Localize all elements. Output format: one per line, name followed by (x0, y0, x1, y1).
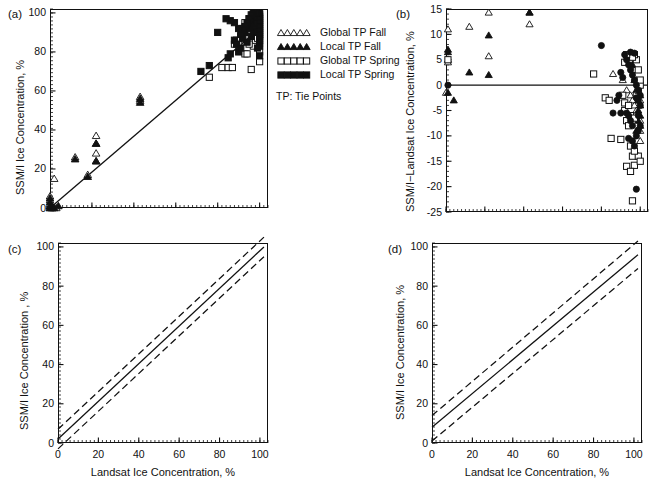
x-tick-label: 0 (418, 448, 446, 460)
y-tick-label: 0 (398, 437, 428, 449)
x-tick-label: 80 (206, 448, 234, 460)
y-tick-label: -20 (412, 180, 442, 192)
x-tick-label: 20 (458, 448, 486, 460)
y-tick-label: 60 (24, 319, 54, 331)
legend-item-label: Global TP Fall (320, 26, 386, 38)
x-tick-label: 40 (499, 448, 527, 460)
y-tick-label: 40 (398, 358, 428, 370)
y-tick-label: 20 (398, 397, 428, 409)
y-tick-label: 60 (398, 319, 428, 331)
y-tick-label: 15 (412, 3, 442, 15)
y-tick-label: 5 (412, 53, 442, 65)
y-tick-label: 0 (24, 437, 54, 449)
y-tick-label: 40 (24, 358, 54, 370)
y-tick-label: 80 (16, 45, 46, 57)
y-tick-label: 100 (24, 240, 54, 252)
y-tick-label: 20 (16, 162, 46, 174)
y-tick-label: 100 (16, 6, 46, 18)
y-tick-label: -25 (412, 206, 442, 218)
x-tick-label: 100 (246, 448, 274, 460)
y-tick-label: 10 (412, 28, 442, 40)
y-tick-label: 40 (16, 123, 46, 135)
y-tick-label: 60 (16, 84, 46, 96)
y-tick-label: 0 (412, 79, 442, 91)
x-tick-label: 40 (125, 448, 153, 460)
y-tick-label: -15 (412, 155, 442, 167)
x-tick-label: 60 (539, 448, 567, 460)
x-tick-label: 20 (84, 448, 112, 460)
y-tick-label: 0 (16, 202, 46, 214)
legend-item-label: Local TP Spring (320, 68, 394, 80)
legend-note: TP: Tie Points (276, 90, 341, 102)
y-tick-label: 20 (24, 397, 54, 409)
x-tick-label: 60 (165, 448, 193, 460)
y-tick-label: 100 (398, 240, 428, 252)
y-tick-label: 80 (398, 280, 428, 292)
x-tick-label: 0 (44, 448, 72, 460)
x-tick-label: 80 (580, 448, 608, 460)
y-tick-label: -10 (412, 129, 442, 141)
x-tick-label: 100 (620, 448, 648, 460)
panel-d-x-axis-label: Landsat Ice Concentration, % (432, 466, 642, 478)
y-tick-label: -5 (412, 104, 442, 116)
legend-item-label: Local TP Fall (320, 40, 381, 52)
y-tick-label: 80 (24, 280, 54, 292)
legend-item-label: Global TP Spring (320, 54, 400, 66)
